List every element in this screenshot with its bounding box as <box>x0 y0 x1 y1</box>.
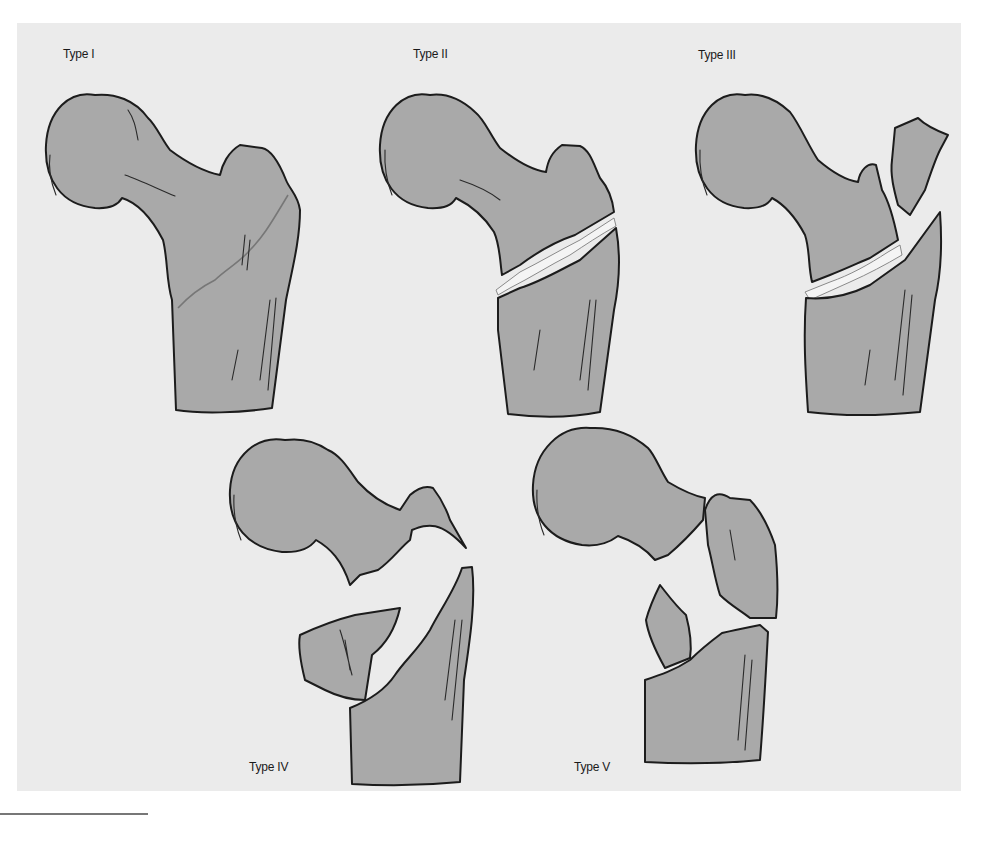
femur-type-4-illustration <box>230 439 473 785</box>
femur-type-2-illustration <box>380 94 619 417</box>
femur-type-5-illustration <box>533 428 778 763</box>
fracture-illustrations <box>0 0 981 845</box>
femur-type-3-illustration <box>696 94 948 415</box>
footnote-rule <box>0 813 148 815</box>
femur-type-1-illustration <box>46 94 300 412</box>
